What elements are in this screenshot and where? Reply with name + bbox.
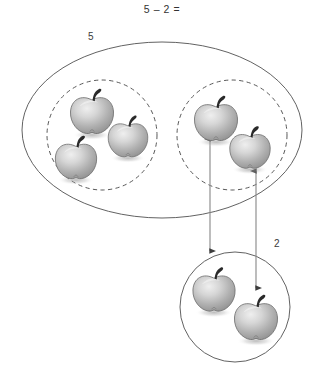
apple-bottom-2 [234, 295, 277, 346]
taken-away-set-label: 2 [274, 239, 280, 249]
math-subtraction-illustration: 5 – 2 = 5 2 [0, 0, 324, 381]
apple-left-2 [108, 116, 148, 163]
apple-group-taken-away [193, 267, 278, 346]
apple-left-3 [55, 136, 96, 185]
apple-right-2 [230, 126, 270, 174]
apple-group-remaining [55, 89, 147, 185]
apple-right-1 [194, 96, 237, 147]
outer-set-label: 5 [88, 32, 94, 42]
apple-bottom-1 [193, 267, 235, 317]
outer-set-ellipse [22, 42, 302, 218]
subtraction-expression: 5 – 2 = [0, 4, 324, 15]
apple-left-1 [70, 89, 113, 140]
scene-canvas [0, 0, 324, 381]
apple-group-removed [194, 96, 270, 175]
